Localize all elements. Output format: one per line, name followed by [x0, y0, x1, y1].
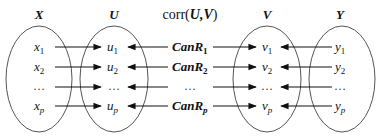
row-1: x1 u1 CanR1 v1 y1: [33, 39, 345, 56]
v-ellipsis: …: [261, 79, 273, 93]
u-item: up: [107, 98, 119, 115]
y-ellipsis: …: [334, 79, 346, 93]
canr-item: CanR1: [172, 39, 208, 56]
v-item: vp: [262, 98, 273, 115]
header-corr: corr(U,V): [163, 7, 218, 23]
y-item: y2: [333, 59, 345, 76]
v-item: v2: [262, 59, 272, 76]
canr-item: CanR2: [172, 59, 208, 76]
u-item: u1: [107, 39, 118, 56]
canonical-correlation-diagram: X U corr(U,V) V Y x1 u1 CanR1 v1 y1 x2 u…: [0, 0, 381, 140]
header-y: Y: [336, 7, 345, 22]
header-x: X: [34, 7, 44, 22]
x-item: x1: [33, 39, 44, 56]
row-p: xp up CanRp vp yp: [33, 98, 346, 115]
canr-ellipsis: …: [184, 79, 196, 93]
y-item: y1: [333, 39, 345, 56]
header-u: U: [109, 7, 119, 22]
canr-item: CanRp: [172, 98, 208, 115]
x-item: x2: [33, 59, 44, 76]
x-ellipsis: …: [33, 79, 45, 93]
header-v: V: [263, 7, 273, 22]
u-item: u2: [107, 59, 118, 76]
x-item: xp: [33, 98, 45, 115]
v-item: v1: [262, 39, 272, 56]
y-item: yp: [333, 98, 346, 115]
u-ellipsis: …: [108, 79, 120, 93]
